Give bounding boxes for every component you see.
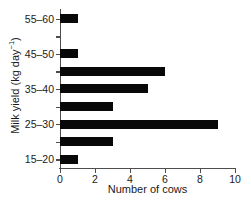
y-axis-tick [56,159,60,160]
x-axis-tick-label: 8 [190,173,210,186]
y-axis-tick-label: 15–20 [25,154,54,165]
x-axis-tick-label: 4 [120,173,140,186]
bar [60,137,113,146]
y-axis-tick [56,71,60,72]
x-axis-tick [235,168,236,173]
y-axis-tick [56,142,60,143]
x-axis-tick [165,168,166,173]
y-axis-tick [56,19,60,20]
bar [60,155,78,164]
x-axis-tick [95,168,96,173]
x-axis-tick-label: 10 [225,173,245,186]
bar-row [60,63,235,81]
bar [60,84,148,93]
bar-row [60,98,235,116]
bar [60,49,78,58]
x-axis-tick [130,168,131,173]
x-axis-tick-label: 6 [155,173,175,186]
y-axis-tick-label: 45–50 [25,49,54,60]
x-axis-tick [200,168,201,173]
bar-row [60,115,235,133]
x-axis-tick-label: 2 [85,173,105,186]
y-axis-tick [56,124,60,125]
y-axis-tick-label: 25–30 [25,119,54,130]
bar [60,102,113,111]
x-axis-tick-label: 0 [50,173,70,186]
y-axis-tick [56,107,60,108]
y-axis-title-base: Milk yield (kg day [9,49,21,133]
y-axis-title-close: ) [9,37,21,41]
bar [60,67,165,76]
y-axis-title-exponent: −1 [7,41,16,50]
y-axis-tick [56,54,60,55]
x-axis-tick [60,168,61,173]
y-axis-tick [56,89,60,90]
milk-yield-bar-chart: Milk yield (kg day−1) 15–2025–3035–4045–… [0,0,251,203]
bar-row [60,150,235,168]
x-axis-line [59,168,236,169]
bar [60,14,78,23]
y-axis-title: Milk yield (kg day−1) [6,4,24,167]
bar-row [60,45,235,63]
bar-row [60,28,235,46]
y-axis-tick [56,36,60,37]
y-axis-tick-label: 55–60 [25,14,54,25]
bar-row [60,133,235,151]
plot-area: 15–2025–3035–4045–5055–60 [60,10,235,168]
bar-row [60,80,235,98]
bar [60,120,218,129]
bar-row [60,10,235,28]
y-axis-tick-label: 35–40 [25,84,54,95]
